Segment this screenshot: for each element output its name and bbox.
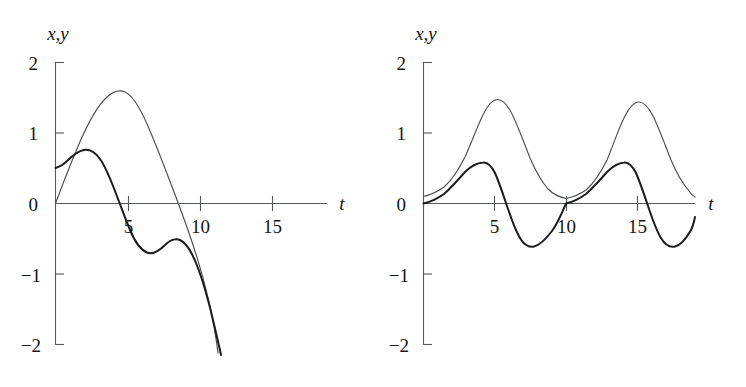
x-tick-label-5-right: 5 <box>490 216 500 237</box>
x-tick-label-5-left: 5 <box>124 216 134 237</box>
x-axis-label-right: t <box>708 193 714 214</box>
curve-x-left <box>56 150 222 355</box>
curve-y-right <box>424 99 696 198</box>
y-tick-label-2-left: 2 <box>29 53 39 74</box>
y-tick-label-minus1-left: −1 <box>21 265 41 286</box>
y-tick-label-2-right: 2 <box>397 53 407 74</box>
y-tick-label-0-right: 0 <box>397 194 407 215</box>
y-tick-label-0-left: 0 <box>29 194 39 215</box>
x-tick-label-15-left: 15 <box>263 216 282 237</box>
plot-panel-right: 2 1 0 −1 −2 5 10 15 x,y t <box>373 0 746 387</box>
y-tick-label-minus1-right: −1 <box>389 265 409 286</box>
x-tick-label-15-right: 15 <box>628 216 647 237</box>
x-tick-label-10-right: 10 <box>557 216 576 237</box>
y-tick-label-1-left: 1 <box>29 123 39 144</box>
figure-container: 2 1 0 −1 −2 5 10 15 x,y t <box>0 0 746 387</box>
y-tick-label-1-right: 1 <box>397 123 407 144</box>
x-axis-label-left: t <box>339 193 345 214</box>
plot-panel-left: 2 1 0 −1 −2 5 10 15 x,y t <box>0 0 373 387</box>
y-axis-label-left: x,y <box>46 23 69 44</box>
y-tick-label-minus2-right: −2 <box>389 335 409 356</box>
y-axis-label-right: x,y <box>414 23 437 44</box>
y-tick-label-minus2-left: −2 <box>21 335 41 356</box>
x-tick-label-10-left: 10 <box>191 216 210 237</box>
